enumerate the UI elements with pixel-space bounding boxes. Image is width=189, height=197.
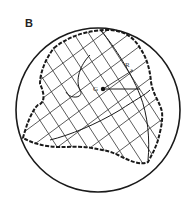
- center-point-label: G: [93, 85, 98, 93]
- center-point: [101, 87, 105, 91]
- radius-line-2: [103, 70, 133, 89]
- hatch-pattern: [0, 0, 189, 195]
- outer-circle: [16, 28, 180, 192]
- diagram-canvas: G R 1: [0, 0, 189, 197]
